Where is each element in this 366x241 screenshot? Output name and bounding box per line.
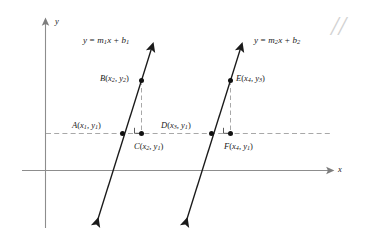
point-marker-e (228, 78, 233, 83)
line-1-eq-plus: + (111, 35, 121, 45)
point-marker-f (228, 131, 233, 136)
point-marker-c (139, 131, 144, 136)
line-2-eq-plus: + (282, 35, 292, 45)
point-label-c: C(x2, y1) (134, 142, 163, 151)
point-label-e: E(x4, y3) (236, 74, 265, 83)
point-marker-b (139, 78, 144, 83)
line-1-eq-slope: m (97, 35, 104, 45)
point-label-d: D(x3, y1) (161, 121, 191, 130)
line-1-equation: y = m1x + b1 (83, 36, 129, 46)
line-1-eq-sign: = (87, 35, 97, 45)
y-axis-label: y (55, 17, 59, 26)
line-2-equation: y = m2x + b2 (254, 36, 300, 46)
point-marker-a (120, 131, 125, 136)
corner-annotation-mark: // (331, 11, 361, 41)
point-label-b: B(x2, y2) (100, 74, 129, 83)
line-2-eq-sign: = (258, 35, 268, 45)
line-2-eq-intercept-sub: 2 (297, 38, 300, 45)
point-label-f: F(x4, y1) (224, 142, 253, 151)
x-axis-label: x (338, 165, 342, 174)
point-label-a: A(x1, y1) (72, 121, 101, 130)
line-2-eq-slope: m (268, 35, 275, 45)
point-marker-d (209, 131, 214, 136)
geometry-figure: y x y = m1x + b1 y = m2x + b2 B(x2, y2) … (0, 0, 366, 241)
line-1-eq-intercept-sub: 1 (126, 38, 129, 45)
